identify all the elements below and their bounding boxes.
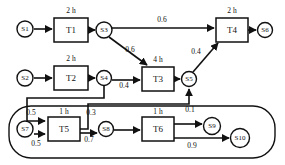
place-s5[interactable]: S5	[182, 72, 197, 87]
weight-label-s5-t4: 0.4	[191, 47, 201, 56]
place-s9[interactable]: S9	[204, 118, 221, 135]
weight-label-s4-t3: 0.4	[119, 81, 129, 90]
weight-label-t6-s9: 0.1	[185, 105, 195, 114]
transition-t1-label: T1	[66, 25, 76, 35]
place-s7[interactable]: S7	[17, 121, 33, 137]
place-s8[interactable]: S8	[99, 122, 114, 137]
weight-label-t5-s5: 0.3	[86, 108, 96, 117]
place-s10[interactable]: S10	[231, 129, 250, 148]
place-s1-label: S1	[21, 25, 29, 33]
workflow-diagram: T1 2 h T2 2 h T3 4 h T4 2 h T5 1 h T6 1 …	[0, 0, 285, 165]
transition-t3-label: T3	[153, 74, 163, 84]
place-s2[interactable]: S2	[17, 70, 33, 86]
transition-t4-duration: 2 h	[227, 6, 237, 15]
weight-label-s4-t5: 0.5	[26, 108, 36, 117]
place-s3-label: S3	[100, 26, 108, 34]
transition-t5-label: T5	[59, 124, 69, 134]
transition-t1-duration: 2 h	[66, 6, 76, 15]
transition-t6-duration: 1 h	[153, 107, 163, 116]
transition-t6-label: T6	[153, 124, 163, 134]
weight-label-t6-s10: 0.9	[187, 141, 197, 150]
place-s1[interactable]: S1	[17, 21, 33, 37]
transition-t2-label: T2	[66, 73, 76, 83]
place-s5-label: S5	[185, 75, 193, 83]
place-s2-label: S2	[21, 74, 29, 82]
transition-t5-duration: 1 h	[59, 107, 69, 116]
transition-t3-duration: 4 h	[153, 55, 163, 64]
transition-t2-duration: 2 h	[66, 54, 76, 63]
place-s6[interactable]: S6	[258, 23, 273, 38]
place-s9-label: S9	[208, 122, 216, 130]
place-s7-label: S7	[21, 125, 29, 133]
transition-t4-label: T4	[227, 25, 237, 35]
place-s3[interactable]: S3	[96, 22, 112, 38]
weight-label-t5-s8: 0.7	[84, 135, 94, 144]
weight-label-s3-t4: 0.6	[157, 15, 167, 24]
weight-label-s7-t5: 0.5	[31, 139, 41, 148]
weight-label-s3-t3: 0.6	[125, 45, 135, 54]
place-s8-label: S8	[102, 125, 110, 133]
place-s10-label: S10	[235, 134, 246, 142]
place-s4[interactable]: S4	[97, 71, 112, 86]
place-s6-label: S6	[261, 26, 269, 34]
place-s4-label: S4	[100, 74, 108, 82]
